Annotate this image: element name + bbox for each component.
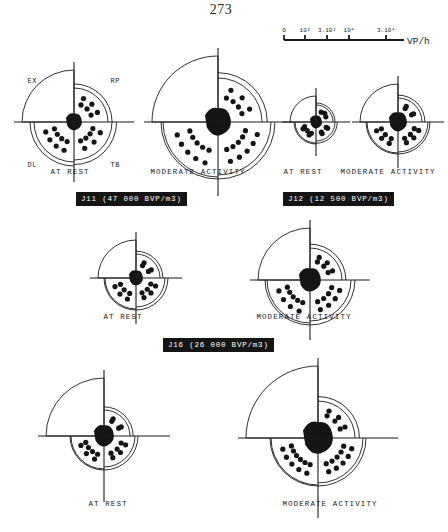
density-dot <box>47 137 52 142</box>
density-dot <box>84 451 89 456</box>
scale-tick-label-0: 0 <box>282 27 286 34</box>
density-dot <box>404 104 409 109</box>
density-dot <box>139 290 144 295</box>
density-dot <box>289 443 294 448</box>
scale-legend: 0 10³ 3.10³ 10⁴ 3.10⁴ VP/h <box>282 24 442 54</box>
density-dot <box>320 131 325 136</box>
scale-tick-label-4: 3.10⁴ <box>377 27 395 34</box>
density-dot <box>236 140 241 145</box>
density-dot <box>200 145 205 150</box>
density-dot <box>92 456 97 461</box>
quadrant-label-ex: EX <box>27 77 37 85</box>
density-dot <box>338 449 343 454</box>
density-dot <box>230 99 235 104</box>
density-dot <box>374 128 379 133</box>
density-dot <box>321 296 326 301</box>
density-dot <box>110 455 115 460</box>
density-dot <box>236 104 241 109</box>
density-dot <box>122 287 127 292</box>
caption-j11-at-rest: AT REST <box>10 168 130 176</box>
density-dot <box>298 457 303 462</box>
density-dot <box>296 467 301 472</box>
scale-tick-label-2: 3.10³ <box>318 27 336 34</box>
caption-j16-at-rest: AT REST <box>68 313 178 321</box>
density-dot <box>315 259 320 264</box>
density-dot <box>83 135 88 140</box>
density-dot <box>346 454 351 459</box>
density-dot <box>300 126 305 131</box>
density-dot <box>325 260 330 265</box>
density-dot <box>247 106 252 111</box>
density-dot <box>251 141 256 146</box>
density-dot <box>206 148 211 153</box>
density-dot <box>326 408 331 413</box>
polar-svg <box>240 210 380 350</box>
density-dot <box>324 461 329 466</box>
density-dot <box>337 288 342 293</box>
density-dot <box>95 110 100 115</box>
density-dot <box>308 462 313 467</box>
density-dot <box>141 260 146 265</box>
density-dot <box>404 140 409 145</box>
density-dot <box>91 139 96 144</box>
density-dot <box>148 281 153 286</box>
density-dot <box>84 106 89 111</box>
density-dot <box>125 296 130 301</box>
density-dot <box>119 424 124 429</box>
density-dot <box>111 416 116 421</box>
density-dot <box>83 440 88 445</box>
density-dot <box>54 143 59 148</box>
density-dot <box>61 148 66 153</box>
density-dot <box>148 290 153 295</box>
density-dot <box>78 138 83 143</box>
density-dot <box>411 135 416 140</box>
density-dot <box>340 460 345 465</box>
density-dot <box>329 458 334 463</box>
density-dot <box>224 95 229 100</box>
density-dot <box>55 132 60 137</box>
density-dot <box>123 442 128 447</box>
density-dot <box>202 160 207 165</box>
polar-diagram-j16-moderate <box>240 210 380 350</box>
density-dot <box>95 452 100 457</box>
density-dot <box>117 291 122 296</box>
density-dot <box>195 140 200 145</box>
density-dot <box>179 142 184 147</box>
group-bar-j11: J11 (47 000 BVP/m3) <box>76 192 187 206</box>
density-dot <box>90 126 95 131</box>
density-dot <box>284 455 289 460</box>
density-dot <box>255 132 260 137</box>
density-dot <box>326 291 331 296</box>
density-dot <box>78 443 83 448</box>
density-dot <box>108 451 113 456</box>
density-dot <box>383 132 388 137</box>
density-dot <box>291 294 296 299</box>
scale-tick-labels: 0 10³ 3.10³ 10⁴ 3.10⁴ <box>282 27 395 34</box>
density-dot <box>326 270 331 275</box>
density-dot <box>315 299 320 304</box>
density-dot <box>304 471 309 476</box>
density-dot <box>379 126 384 131</box>
scale-tick-label-1: 10³ <box>300 27 311 34</box>
sector-arc-ex <box>98 240 136 278</box>
density-dot <box>338 426 343 431</box>
density-dot <box>341 444 346 449</box>
density-dot <box>82 146 87 151</box>
density-dot <box>332 418 337 423</box>
scale-legend-svg: 0 10³ 3.10³ 10⁴ 3.10⁴ VP/h <box>282 24 442 54</box>
density-dot <box>291 448 296 453</box>
density-dot <box>411 111 416 116</box>
caption-j16-moderate: MODERATE ACTIVITY <box>234 313 374 321</box>
density-dot <box>228 88 233 93</box>
density-dot <box>294 453 299 458</box>
density-dot <box>190 135 195 140</box>
density-dot <box>287 290 292 295</box>
density-dot <box>300 300 305 305</box>
density-dot <box>237 155 242 160</box>
density-dot <box>153 283 158 288</box>
density-dot <box>52 126 57 131</box>
density-dot <box>185 150 190 155</box>
density-dot <box>389 136 394 141</box>
density-dot <box>280 447 285 452</box>
density-dot <box>245 149 250 154</box>
